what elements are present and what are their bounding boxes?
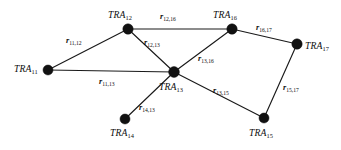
edge-r13_16 [174,29,232,72]
nodes-group [43,24,302,124]
node-label-text: TRA [159,81,177,92]
edge-label-r15_17: r15,17 [283,84,299,92]
node-label-TRA12: TRA12 [108,10,132,20]
node-label-text: TRA [110,127,128,138]
node-TRA13 [169,67,180,78]
edge-label-r11_12: r11,12 [66,37,82,45]
edge-label-r16_17: r16,17 [256,24,272,32]
edge-r11_12 [48,29,128,70]
node-label-text: TRA [14,63,32,74]
node-TRA16 [227,24,237,34]
edge-label-subscript: 12,16 [163,16,176,22]
node-label-TRA13: TRA13 [159,82,183,92]
edge-label-r13_16: r13,16 [198,55,214,63]
node-label-text: TRA [305,40,323,51]
edge-label-r12_13: r12,13 [144,39,160,47]
node-label-subscript: 13 [177,86,183,93]
node-TRA12 [123,24,133,34]
edge-label-subscript: 13,16 [201,58,214,64]
node-label-subscript: 12 [126,14,132,21]
node-label-text: TRA [108,9,126,20]
edge-label-r13_15: r13,15 [213,87,229,95]
node-label-subscript: 14 [128,132,134,139]
graph-diagram: r11,12r12,16r16,17r12,13r11,13r13,16r14,… [0,0,341,150]
node-TRA11 [43,65,53,75]
node-label-TRA16: TRA16 [213,10,237,20]
node-label-subscript: 17 [323,45,329,52]
edge-label-subscript: 13,15 [216,90,229,96]
node-label-TRA11: TRA11 [14,64,38,74]
edge-label-subscript: 15,17 [286,87,299,93]
edge-label-subscript: 14,13 [142,107,155,113]
node-label-subscript: 11 [32,68,38,75]
node-TRA15 [259,113,269,123]
edge-label-subscript: 11,13 [102,81,114,87]
graph-canvas [0,0,341,150]
node-label-TRA17: TRA17 [305,41,329,51]
node-label-subscript: 15 [267,132,273,139]
node-label-text: TRA [249,127,267,138]
edge-label-r12_16: r12,16 [160,13,176,21]
node-TRA14 [120,114,130,124]
edge-label-subscript: 12,13 [147,42,160,48]
node-label-subscript: 16 [231,14,237,21]
edge-label-subscript: 11,12 [69,40,81,46]
node-TRA17 [292,39,302,49]
node-label-TRA14: TRA14 [110,128,134,138]
edge-label-r14_13: r14,13 [139,104,155,112]
edge-r12_13 [128,29,174,72]
node-label-text: TRA [213,9,231,20]
edge-label-subscript: 16,17 [259,27,272,33]
edge-r15_17 [264,44,297,118]
node-label-TRA15: TRA15 [249,128,273,138]
edge-r11_13 [48,70,174,72]
edge-label-r11_13: r11,13 [99,78,115,86]
